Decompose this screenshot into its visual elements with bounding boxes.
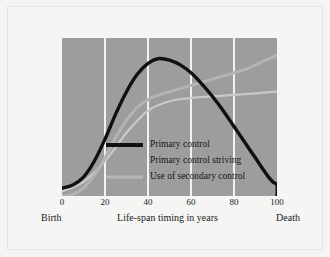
x-tick-label-60: 60 [187, 197, 196, 207]
legend-item[interactable]: Use of secondary control [106, 169, 266, 185]
x-tick-label-100: 100 [270, 197, 284, 207]
x-axis-footer: Birth Life-span timing in years Death [20, 212, 315, 228]
x-tick-label-0: 0 [60, 197, 65, 207]
legend-item-label: Primary control [150, 140, 210, 150]
plot-area: Primary controlPrimary control strivingU… [62, 38, 277, 196]
legend-item[interactable]: Primary control striving [106, 153, 266, 169]
axis-endpoint-death: Death [276, 212, 300, 223]
x-tick-label-20: 20 [101, 197, 110, 207]
legend-swatch-icon [106, 156, 143, 166]
figure: Availability/use of control Primary cont… [0, 0, 330, 257]
legend-swatch-icon [106, 172, 143, 182]
legend-item-label: Primary control striving [150, 156, 241, 166]
x-axis-label: Life-span timing in years [20, 212, 315, 223]
x-tick-label-80: 80 [230, 197, 239, 207]
x-axis-ticks: 020406080100 [62, 197, 277, 211]
legend-item-label: Use of secondary control [150, 172, 245, 182]
y-axis-label-container: Availability/use of control [44, 38, 58, 196]
chart-legend: Primary controlPrimary control strivingU… [106, 137, 266, 185]
legend-swatch-icon [106, 140, 143, 150]
legend-item[interactable]: Primary control [106, 137, 266, 153]
x-tick-label-40: 40 [144, 197, 153, 207]
